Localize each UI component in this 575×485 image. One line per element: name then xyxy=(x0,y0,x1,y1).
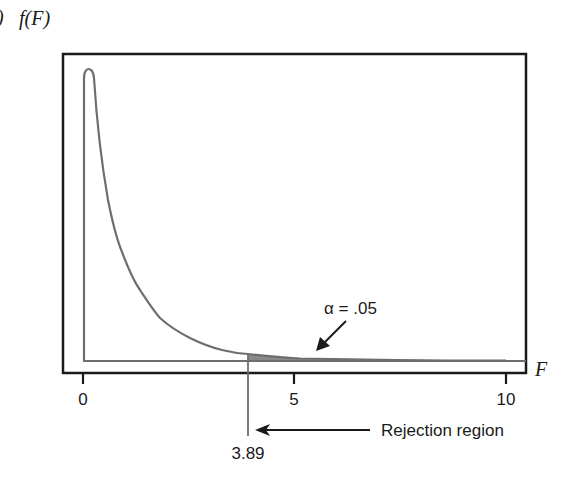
plot-frame xyxy=(63,54,526,373)
density-curve xyxy=(84,69,506,361)
y-axis-label: f(F) xyxy=(19,7,50,30)
alpha-arrow-shaft xyxy=(324,321,346,343)
tick-label-10: 10 xyxy=(497,390,516,409)
f-distribution-chart: ) f(F) 0 5 10 F α = .05 Rejection region… xyxy=(0,0,575,485)
tick-label-5: 5 xyxy=(289,390,298,409)
rejection-region-label: Rejection region xyxy=(381,421,504,440)
x-axis-label: F xyxy=(534,358,548,380)
corner-mark: ) xyxy=(0,6,4,29)
tick-label-0: 0 xyxy=(78,390,87,409)
critical-value-label: 3.89 xyxy=(231,444,264,463)
alpha-label: α = .05 xyxy=(324,299,377,318)
